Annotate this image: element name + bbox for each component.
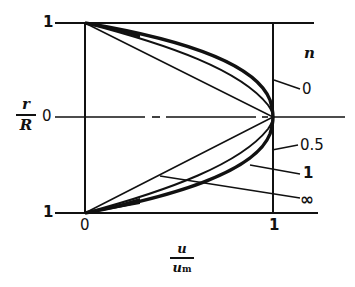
legend-label-n1: 1 [303, 166, 313, 181]
x-tick-zero: 0 [80, 218, 90, 233]
y-tick-top: 1 [43, 15, 53, 30]
wedge-top [85, 22, 140, 38]
x-axis-label: u um [170, 242, 194, 274]
y-label-denominator: R [20, 116, 32, 134]
legend-title: n [304, 46, 315, 61]
leader-n0.5 [272, 145, 298, 150]
x-label-denominator: um [173, 260, 192, 275]
y-tick-bottom: 1 [43, 205, 53, 220]
x-label-numerator: u [177, 241, 186, 256]
legend-label-n0: 0 [302, 82, 312, 97]
legend-label-n0.5: 0.5 [300, 138, 324, 153]
leader-n0 [274, 80, 300, 89]
y-axis-label: r R [16, 97, 36, 133]
legend-label-ninf: ∞ [300, 191, 314, 208]
curve-n-1 [85, 23, 273, 213]
leader-ninf [160, 176, 300, 198]
x-tick-one: 1 [269, 218, 279, 233]
y-tick-middle: 0 [42, 109, 52, 124]
leader-n1 [250, 165, 300, 174]
y-label-numerator: r [22, 95, 30, 113]
fraction-bar [170, 257, 194, 259]
